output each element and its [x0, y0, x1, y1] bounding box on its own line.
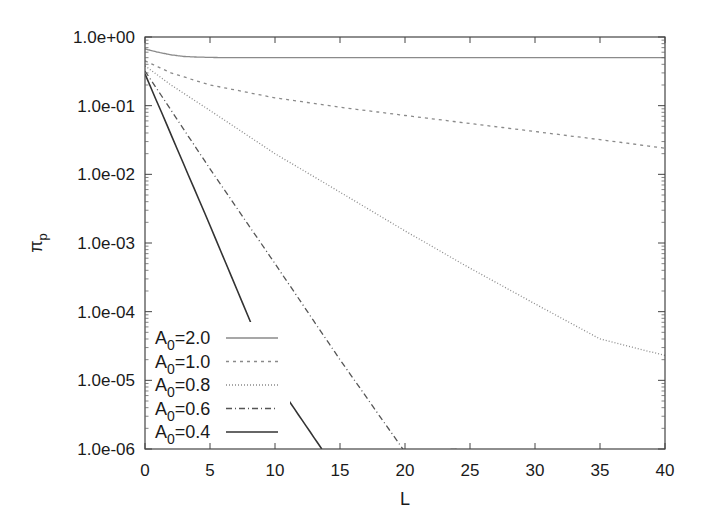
x-tick-label: 10	[266, 461, 285, 480]
y-tick-label: 1.0e+00	[73, 28, 135, 47]
series-line-2	[145, 66, 665, 356]
x-tick-label: 25	[461, 461, 480, 480]
x-tick-label: 15	[331, 461, 350, 480]
legend-label: A0=1.0	[155, 352, 210, 377]
series-line-1	[145, 61, 665, 148]
legend-item: A0=2.0	[155, 328, 278, 353]
x-axis-label: L	[400, 489, 410, 509]
x-tick-label: 30	[526, 461, 545, 480]
x-axis: 0510152025303540	[140, 37, 674, 480]
legend-item: A0=0.6	[155, 399, 278, 424]
legend: A0=2.0A0=1.0A0=0.8A0=0.6A0=0.4	[155, 328, 278, 447]
x-tick-label: 40	[656, 461, 675, 480]
y-axis-label: πp	[26, 233, 50, 253]
legend-item: A0=0.4	[155, 422, 278, 447]
legend-label: A0=0.4	[155, 422, 210, 447]
legend-item: A0=1.0	[155, 352, 278, 377]
y-tick-label: 1.0e-06	[77, 440, 135, 459]
x-tick-label: 35	[591, 461, 610, 480]
legend-item: A0=0.8	[155, 375, 278, 400]
legend-label: A0=2.0	[155, 328, 210, 353]
series-line-0	[145, 49, 665, 58]
legend-label: A0=0.8	[155, 375, 210, 400]
x-tick-label: 20	[396, 461, 415, 480]
chart: 0510152025303540 1.0e+001.0e-011.0e-021.…	[0, 0, 713, 524]
y-tick-label: 1.0e-01	[77, 97, 135, 116]
y-tick-label: 1.0e-05	[77, 371, 135, 390]
x-tick-label: 5	[205, 461, 214, 480]
y-tick-label: 1.0e-04	[77, 303, 135, 322]
y-tick-label: 1.0e-02	[77, 165, 135, 184]
legend-label: A0=0.6	[155, 399, 210, 424]
series-layer	[145, 49, 665, 452]
svg-text:πp: πp	[26, 233, 50, 253]
x-tick-label: 0	[140, 461, 149, 480]
y-tick-label: 1.0e-03	[77, 234, 135, 253]
plot-frame	[145, 37, 665, 449]
